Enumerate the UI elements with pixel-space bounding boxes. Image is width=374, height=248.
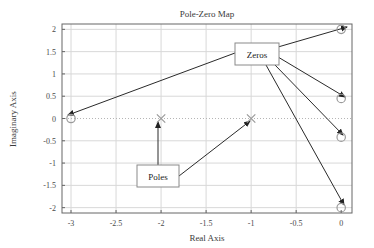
y-tick-label: 2 [52, 25, 56, 34]
y-tick-label: 0.5 [46, 92, 56, 101]
y-tick-label: 1 [52, 70, 56, 79]
x-axis-label: Real Axis [189, 233, 225, 243]
x-tick-label: -2.5 [110, 219, 123, 228]
y-tick-label: -1.5 [43, 181, 56, 190]
y-tick-label: 0 [52, 115, 56, 124]
annotation-label: Zeros [247, 50, 268, 60]
y-tick-label: -0.5 [43, 137, 56, 146]
y-axis-label: Imaginary Axis [8, 91, 18, 147]
x-tick-label: -1.5 [200, 219, 213, 228]
x-tick-label: -3 [68, 219, 75, 228]
y-tick-label: -1 [49, 159, 56, 168]
chart-title: Pole-Zero Map [180, 9, 235, 19]
x-tick-label: -0.5 [290, 219, 303, 228]
pole-zero-map-figure: ZerosPoles -3-2.5-2-1.5-1-0.50 21.510.50… [0, 0, 374, 248]
x-tick-label: -2 [158, 219, 165, 228]
y-tick-label: 1.5 [46, 48, 56, 57]
x-tick-label: 0 [339, 219, 343, 228]
y-tick-label: -2 [49, 204, 56, 213]
annotation-label: Poles [148, 172, 168, 182]
chart-canvas: ZerosPoles -3-2.5-2-1.5-1-0.50 21.510.50… [0, 0, 374, 248]
x-tick-label: -1 [248, 219, 255, 228]
figure-background [0, 0, 374, 248]
